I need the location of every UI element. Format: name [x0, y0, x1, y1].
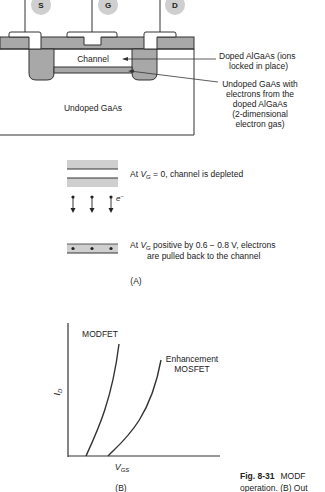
figure-caption-line2: operation. (B) Out: [240, 483, 308, 492]
2deg-layer: [54, 67, 132, 73]
y-axis-label: ID: [52, 388, 63, 396]
svg-text:ID: ID: [52, 388, 63, 396]
channel-label: Channel: [77, 54, 109, 64]
svg-text:locked in place): locked in place): [229, 61, 288, 71]
electron-label: e−: [116, 193, 124, 203]
state-1-text: At VG = 0, channel is depleted: [130, 169, 243, 180]
drain-terminal-label: D: [172, 1, 178, 10]
panel-a-depleted: [67, 160, 118, 187]
electron-arrows: [71, 195, 114, 213]
figure-caption-line1: Fig. 8-31MODF: [240, 471, 306, 481]
id-vgs-chart: [68, 323, 220, 457]
state-2-text-line2: are pulled back to the channel: [147, 251, 261, 261]
svg-text:Enhancement: Enhancement: [166, 354, 219, 364]
callout-doped-algaas: Doped AlGaAs (ions locked in place): [219, 51, 296, 71]
device-cross-section: [0, 0, 218, 135]
svg-text:MOSFET: MOSFET: [174, 364, 209, 374]
panel-a-label: (A): [130, 276, 142, 286]
modfet-curve: [86, 344, 119, 456]
svg-text:electron gas): electron gas): [235, 119, 284, 129]
modfet-figure: S G D Channel Undoped GaAs Doped AlGaAs …: [0, 0, 325, 492]
substrate-label: Undoped GaAs: [64, 103, 122, 113]
mosfet-curve: [108, 360, 161, 456]
state-2-text-line1: At VG positive by 0.6 − 0.8 V, electrons: [130, 240, 275, 251]
svg-text:electrons from the: electrons from the: [226, 89, 294, 99]
svg-text:Doped AlGaAs (ions: Doped AlGaAs (ions: [219, 51, 296, 61]
panel-b-label: (B): [115, 483, 127, 492]
svg-text:doped AlGaAs: doped AlGaAs: [233, 99, 287, 109]
svg-text:(2-dimensional: (2-dimensional: [232, 109, 288, 119]
callout-2deg: Undoped GaAs with electrons from the dop…: [222, 79, 298, 129]
gate-terminal-label: G: [105, 1, 111, 10]
modfet-label: MODFET: [82, 329, 118, 339]
svg-text:Undoped GaAs with: Undoped GaAs with: [222, 79, 298, 89]
source-terminal-label: S: [38, 1, 44, 10]
panel-a-channel-filled: [67, 244, 118, 253]
x-axis-label: VGS: [115, 462, 130, 473]
mosfet-label: Enhancement MOSFET: [166, 354, 219, 374]
